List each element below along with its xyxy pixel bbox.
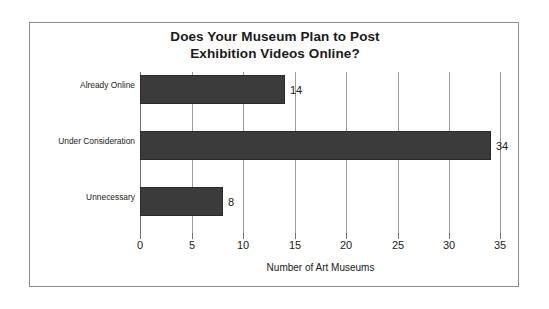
chart-title-line-2: Exhibition Videos Online? [60, 45, 490, 62]
bar-unnecessary [140, 187, 223, 216]
x-axis-title: Number of Art Museums [140, 262, 501, 273]
x-tick-label-10: 10 [237, 240, 249, 251]
x-tick-label-20: 20 [340, 240, 352, 251]
x-tick-label-0: 0 [137, 240, 143, 251]
bar-value-under-consideration: 34 [496, 140, 508, 151]
chart-figure: Does Your Museum Plan to Post Exhibition… [0, 0, 549, 309]
x-tick-label-35: 35 [494, 240, 506, 251]
category-label-already-online: Already Online [30, 81, 135, 89]
plot-area: 14 34 8 [140, 72, 501, 233]
gridline-35 [500, 72, 501, 233]
x-tick-label-30: 30 [443, 240, 455, 251]
category-label-unnecessary: Unnecessary [30, 193, 135, 201]
x-tick-label-5: 5 [189, 240, 195, 251]
category-label-under-consideration: Under Consideration [30, 137, 135, 145]
bar-under-consideration [140, 131, 491, 160]
chart-title-line-1: Does Your Museum Plan to Post [60, 28, 490, 45]
x-axis-tick-labels: 0 5 10 15 20 25 30 35 [140, 240, 501, 254]
bar-already-online [140, 75, 285, 104]
chart-title: Does Your Museum Plan to Post Exhibition… [60, 28, 490, 62]
bar-value-unnecessary: 8 [228, 196, 234, 207]
x-tick-label-15: 15 [289, 240, 301, 251]
bar-value-already-online: 14 [290, 84, 302, 95]
x-tick-label-25: 25 [392, 240, 404, 251]
